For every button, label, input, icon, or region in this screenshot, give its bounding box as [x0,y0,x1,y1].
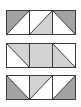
cell-3-1 [7,76,30,100]
cell-1-3 [53,11,76,35]
row-2-tiles [6,43,76,68]
cell-3-2 [30,76,53,100]
pattern-row-3 [6,75,76,100]
cell-1-1 [7,11,30,35]
pattern-row-1 [6,10,76,35]
cell-1-2 [30,11,53,35]
cell-2-2 [30,44,53,68]
row-1-tiles [6,10,76,35]
row-3-tiles [6,75,76,100]
cell-2-1 [7,44,30,68]
cell-2-3 [53,44,76,68]
cell-3-3 [53,76,76,100]
pattern-row-2 [6,43,76,68]
